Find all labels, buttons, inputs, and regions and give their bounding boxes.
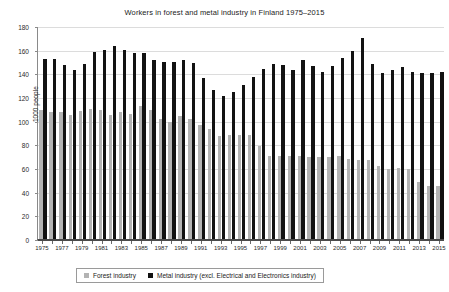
bar-metal-2013 [420, 73, 423, 239]
bar-metal-2006 [351, 51, 354, 239]
x-tick-mark-1985 [141, 241, 142, 244]
x-tick-label-1987: 1987 [154, 245, 167, 251]
x-tick-label-1997: 1997 [254, 245, 267, 251]
x-tick-mark-1981 [102, 241, 103, 244]
x-tick-mark-1979 [82, 241, 83, 244]
x-tick-label-2005: 2005 [333, 245, 346, 251]
bar-forest-1999 [278, 156, 281, 239]
bar-group-1998 [268, 27, 275, 239]
x-tick-mark-2013 [419, 241, 420, 244]
x-tick-mark-2001 [300, 241, 301, 244]
x-tick-label-1979: 1979 [75, 245, 88, 251]
y-tick-label-20: 20 [3, 213, 29, 220]
x-tick-mark-2002 [310, 241, 311, 244]
x-axis: 1975197719791981198319851987198919911993… [37, 241, 444, 257]
x-tick-mark-1999 [280, 241, 281, 244]
bar-forest-1985 [139, 106, 142, 239]
bar-metal-2008 [371, 64, 374, 239]
bar-forest-1993 [218, 136, 221, 239]
y-axis-label: 1000 people [32, 86, 39, 122]
x-tick-label-1995: 1995 [234, 245, 247, 251]
x-tick-label-2015: 2015 [432, 245, 445, 251]
bar-metal-2010 [391, 70, 394, 239]
bar-group-2011 [397, 27, 404, 239]
bar-group-1978 [69, 27, 76, 239]
bar-metal-1998 [272, 64, 275, 239]
x-tick-label-1977: 1977 [55, 245, 68, 251]
x-tick-label-2001: 2001 [293, 245, 306, 251]
bar-forest-2002 [307, 157, 310, 239]
bar-forest-2009 [377, 166, 380, 239]
bar-group-1979 [79, 27, 86, 239]
bar-group-1996 [248, 27, 255, 239]
bar-metal-1990 [192, 63, 195, 239]
bar-group-2014 [427, 27, 434, 239]
bar-forest-1989 [178, 116, 181, 239]
x-tick-mark-2005 [340, 241, 341, 244]
bar-metal-1994 [232, 92, 235, 239]
x-tick-mark-2014 [429, 241, 430, 244]
bar-group-2008 [367, 27, 374, 239]
legend-label-forest: Forest industry [93, 272, 136, 279]
y-tick-label-80: 80 [3, 142, 29, 149]
bar-group-1977 [59, 27, 66, 239]
bar-forest-1975 [39, 110, 42, 239]
chart-legend: Forest industry Metal industry (excl. El… [76, 268, 324, 283]
bar-group-1989 [178, 27, 185, 239]
bar-metal-1984 [133, 53, 136, 239]
bar-forest-2007 [357, 160, 360, 239]
y-tick-mark-160 [35, 51, 38, 52]
x-tick-label-1989: 1989 [174, 245, 187, 251]
bar-metal-1987 [162, 62, 165, 240]
y-tick-mark-40 [35, 193, 38, 194]
x-tick-mark-1984 [131, 241, 132, 244]
x-tick-mark-1975 [42, 241, 43, 244]
bar-group-1981 [99, 27, 106, 239]
bar-metal-1976 [53, 59, 56, 239]
bar-forest-1997 [258, 146, 261, 239]
bar-forest-2004 [327, 157, 330, 239]
bar-group-2003 [317, 27, 324, 239]
x-tick-mark-1992 [211, 241, 212, 244]
bar-forest-2003 [317, 157, 320, 239]
bar-metal-2012 [411, 72, 414, 239]
bar-metal-1997 [262, 69, 265, 239]
bar-group-1995 [238, 27, 245, 239]
bar-forest-1983 [119, 112, 122, 239]
x-tick-mark-1996 [250, 241, 251, 244]
bar-forest-1986 [149, 110, 152, 239]
x-tick-mark-2006 [350, 241, 351, 244]
bar-group-2015 [436, 27, 443, 239]
bar-metal-1982 [113, 46, 116, 239]
bar-group-2004 [327, 27, 334, 239]
bar-metal-1979 [83, 64, 86, 239]
bar-group-1983 [119, 27, 126, 239]
x-tick-mark-1995 [241, 241, 242, 244]
bar-metal-1986 [152, 60, 155, 239]
bar-metal-2005 [341, 58, 344, 239]
legend-label-metal: Metal industry (excl. Electrical and Ele… [157, 272, 316, 279]
x-tick-mark-1977 [62, 241, 63, 244]
x-tick-mark-2011 [399, 241, 400, 244]
bar-metal-1983 [123, 50, 126, 239]
bar-forest-1984 [129, 114, 132, 239]
bar-group-1988 [168, 27, 175, 239]
bar-metal-1989 [182, 60, 185, 239]
x-tick-label-2009: 2009 [373, 245, 386, 251]
bar-group-1990 [188, 27, 195, 239]
bar-metal-1999 [281, 65, 284, 239]
bar-forest-1995 [238, 135, 241, 239]
bar-forest-2012 [407, 169, 410, 239]
bar-group-1975 [39, 27, 46, 239]
bar-forest-1991 [198, 125, 201, 239]
bar-group-2013 [417, 27, 424, 239]
bar-forest-1994 [228, 135, 231, 239]
y-tick-label-180: 180 [3, 24, 29, 31]
x-tick-mark-1980 [92, 241, 93, 244]
y-tick-label-100: 100 [3, 118, 29, 125]
bar-metal-2004 [331, 66, 334, 239]
bar-group-2010 [387, 27, 394, 239]
bar-forest-1992 [208, 129, 211, 239]
bar-metal-1991 [202, 78, 205, 239]
bar-metal-2014 [430, 73, 433, 239]
